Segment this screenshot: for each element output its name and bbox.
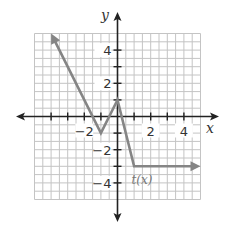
y-tick-label: 4 <box>103 43 111 58</box>
y-tick-label: −4 <box>92 176 111 191</box>
y-tick-label: 2 <box>103 76 111 91</box>
x-tick-label: −2 <box>75 124 94 139</box>
x-tick-label: 4 <box>180 124 188 139</box>
series-end-arrow-icon <box>191 161 201 171</box>
coordinate-plane: −22442−2−4 x y t(x) <box>0 0 229 233</box>
y-axis-label: y <box>100 7 110 23</box>
axes <box>16 12 219 222</box>
x-tick-label: 2 <box>147 124 155 139</box>
function-label: t(x) <box>131 173 152 187</box>
x-axis-label: x <box>206 120 214 136</box>
y-tick-label: −2 <box>92 143 111 158</box>
